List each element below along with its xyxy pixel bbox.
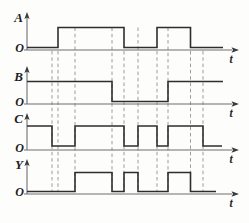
time-axis-arrow-A: [232, 47, 240, 52]
panel-C: COt: [14, 111, 239, 165]
time-label-A: t: [229, 53, 233, 65]
panel-Y: YOt: [15, 157, 239, 209]
origin-label-C: O: [15, 141, 24, 155]
signal-label-C: C: [14, 111, 23, 126]
origin-label-A: O: [15, 41, 24, 55]
panel-A: AOt: [13, 10, 239, 65]
time-axis-arrow-B: [232, 101, 240, 106]
time-axis-arrow-Y: [232, 191, 240, 196]
waveform-B: [27, 82, 223, 102]
origin-label-B: O: [15, 95, 24, 109]
time-label-C: t: [229, 153, 233, 165]
waveform-A: [27, 28, 223, 48]
timing-diagram-canvas: AOtBOtCOtYOt: [0, 0, 249, 223]
waveform-Y: [27, 173, 216, 192]
waveform-C: [27, 126, 222, 146]
signal-label-A: A: [13, 10, 23, 25]
origin-label-Y: O: [15, 185, 24, 199]
signal-label-Y: Y: [15, 157, 24, 172]
signal-label-B: B: [13, 69, 23, 84]
time-label-B: t: [229, 107, 233, 119]
timing-diagram: AOtBOtCOtYOt: [0, 0, 249, 223]
time-axis-arrow-C: [232, 147, 240, 152]
time-label-Y: t: [229, 197, 233, 209]
panel-B: BOt: [13, 66, 239, 119]
